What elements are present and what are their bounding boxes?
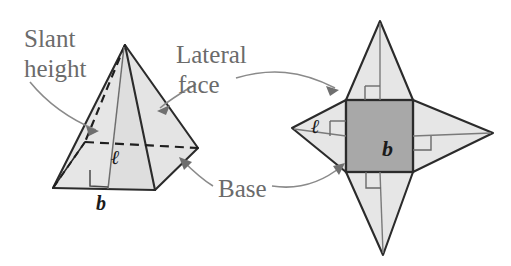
slant-height-label-line2: height bbox=[24, 56, 87, 81]
net-base-square bbox=[346, 100, 413, 172]
lateral-face-label-line1: Lateral bbox=[176, 41, 247, 68]
leader-lateral-face-net bbox=[236, 72, 335, 88]
pyramid-base-symbol: b bbox=[96, 192, 106, 215]
pyramid-slant-height-symbol: ℓ bbox=[111, 146, 120, 169]
lateral-face-label-line2: face bbox=[178, 72, 247, 97]
lateral-face-label: Lateral face bbox=[176, 42, 247, 97]
slant-height-label: Slant height bbox=[24, 26, 87, 81]
net-base-symbol: b bbox=[382, 136, 393, 162]
slant-height-label-line1: Slant bbox=[24, 25, 75, 52]
net-slant-height-symbol: ℓ bbox=[311, 115, 320, 138]
figure-canvas: Slant height Lateral face Base ℓ b ℓ b bbox=[0, 0, 511, 266]
base-label: Base bbox=[218, 176, 267, 201]
net-triangle-bottom bbox=[346, 172, 413, 255]
leader-base-net bbox=[272, 166, 342, 187]
